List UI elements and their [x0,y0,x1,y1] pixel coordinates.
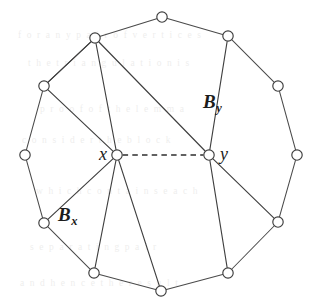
vertex-node-v2 [273,81,283,91]
vertex-node-v4 [273,217,283,227]
triangulation-chord [95,161,116,268]
vertex-node-v5 [223,268,233,278]
polygon-edge [99,274,155,289]
vertex-label-y: y [220,145,228,163]
figure-root: f o r a n y p a i r o f v e r t i c e st… [0,0,322,308]
vertex-label-x: x [99,145,107,163]
triangulation-chord [96,44,116,150]
polygon-edge [232,226,274,269]
ring-edge-group [26,19,295,290]
triangulation-chord [210,161,227,268]
region-label-by: By [203,92,221,111]
region-label-bx-base: B [58,204,71,225]
polygon-triangulation-graph [0,0,322,308]
polygon-edge [26,91,42,149]
vertex-node-v0 [157,12,167,22]
vertex-node-v8 [39,218,49,228]
polygon-edge [100,19,156,37]
region-label-bx: Bx [58,205,77,224]
region-label-by-base: B [203,91,216,112]
vertex-node-y [204,150,214,160]
vertex-node-v3 [292,150,302,160]
vertex-node-v9 [20,150,30,160]
triangulation-chord [119,160,160,285]
vertex-node-x [112,150,122,160]
polygon-edge [27,160,43,217]
vertex-node-group [20,12,302,296]
chord-edge-group [48,42,274,286]
polygon-edge [167,19,222,35]
triangulation-chord [48,42,91,82]
polygon-edge [166,274,222,289]
vertex-node-v10 [39,81,49,91]
vertex-node-v7 [89,268,99,278]
triangulation-chord [99,42,205,151]
polygon-edge [48,227,90,269]
region-label-by-subscript: y [216,101,222,115]
polygon-edge [232,40,274,82]
polygon-edge [279,91,295,149]
triangulation-chord [48,90,113,151]
vertex-node-v1 [223,31,233,41]
triangulation-chord [213,159,274,218]
vertex-node-v11 [90,33,100,43]
vertex-node-v6 [156,286,166,296]
region-label-bx-subscript: x [71,214,77,228]
polygon-edge [280,160,296,216]
